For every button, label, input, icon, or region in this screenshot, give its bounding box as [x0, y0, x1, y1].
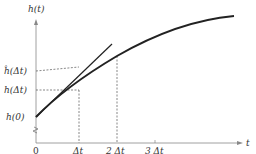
x-axis-label: t: [246, 138, 250, 148]
tick-label-dt: Δt: [72, 146, 83, 154]
label-h-dt: h(Δt): [4, 85, 27, 95]
curve-h: [36, 16, 234, 117]
y-axis-label: h(t): [28, 4, 45, 14]
y-axis: [34, 19, 38, 143]
axis-break-icon: [33, 127, 38, 133]
y-axis-arrow-icon: [34, 19, 38, 25]
label-h-hat: ĥ(Δt): [4, 65, 27, 76]
x-axis-arrow-icon: [237, 141, 243, 145]
tick-label-3dt: 3 Δt: [145, 146, 164, 154]
x-axis: [36, 141, 243, 145]
guide-h-hat: [36, 67, 79, 71]
tick-label-0: 0: [33, 146, 39, 154]
tick-label-2dt: 2 Δt: [105, 146, 125, 154]
label-h0: h(0): [6, 112, 25, 122]
euler-step-diagram: h(t) t ĥ(Δt) h(Δt) h(0) 0 Δt 2 Δt 3 Δt: [0, 0, 256, 154]
